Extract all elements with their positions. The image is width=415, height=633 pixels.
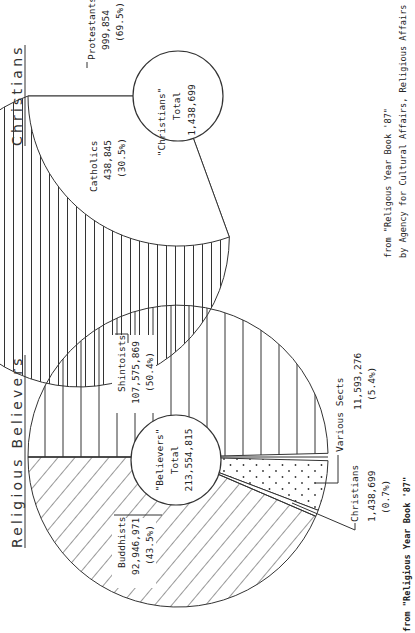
figure-canvas: Christians "Christians" Total 1,438,699 …	[0, 0, 415, 633]
svg-text:Total: Total	[171, 92, 182, 121]
source-caption-christians: from "Religous Year Book '87" by Agency …	[383, 0, 408, 258]
svg-text:(5.4%): (5.4%)	[366, 367, 377, 401]
svg-text:by Agency for Cultural Affairs: by Agency for Cultural Affairs, Religiou…	[398, 0, 408, 258]
svg-text:Protestants: Protestants	[86, 0, 97, 60]
svg-text:from "Religous Year Book '87": from "Religous Year Book '87"	[383, 108, 393, 258]
svg-text:(50.4%): (50.4%)	[144, 352, 155, 392]
svg-text:11,593,276: 11,593,276	[352, 353, 363, 410]
svg-text:213,554,815: 213,554,815	[183, 429, 194, 492]
label-various-sects: Various Sects 11,593,276 (5.4%)	[334, 353, 377, 452]
source-caption-believers: from "Religious Year Book '87"	[402, 477, 412, 632]
svg-text:(69.5%): (69.5%)	[114, 2, 125, 42]
svg-text:Buddhists: Buddhists	[116, 517, 127, 568]
svg-text:438,845: 438,845	[102, 140, 113, 180]
chart-title-christians: Christians	[9, 44, 25, 146]
svg-text:(43.5%): (43.5%)	[144, 525, 155, 565]
svg-text:1,438,699: 1,438,699	[186, 84, 197, 136]
label-christians: Christians 1,438,699 (0.7%)	[349, 465, 391, 522]
svg-text:Various Sects: Various Sects	[334, 378, 345, 452]
svg-text:"Believers": "Believers"	[154, 429, 165, 492]
svg-text:(0.7%): (0.7%)	[380, 480, 391, 514]
svg-text:1,438,699: 1,438,699	[366, 470, 377, 522]
svg-text:Catholics: Catholics	[88, 141, 99, 192]
svg-text:999,854: 999,854	[100, 10, 111, 50]
svg-text:(30.5%): (30.5%)	[116, 138, 127, 178]
svg-text:Total: Total	[169, 446, 180, 475]
svg-text:107,575,869: 107,575,869	[130, 341, 141, 404]
svg-text:Christians: Christians	[349, 465, 360, 522]
svg-text:"Christians": "Christians"	[156, 88, 167, 157]
believers-pie: Religious Believers "Believers" Total 21…	[9, 305, 412, 632]
svg-text:Shintoists: Shintoists	[116, 335, 127, 392]
svg-text:92,946,971: 92,946,971	[130, 518, 141, 575]
chart-title-believers: Religious Believers	[9, 355, 25, 548]
